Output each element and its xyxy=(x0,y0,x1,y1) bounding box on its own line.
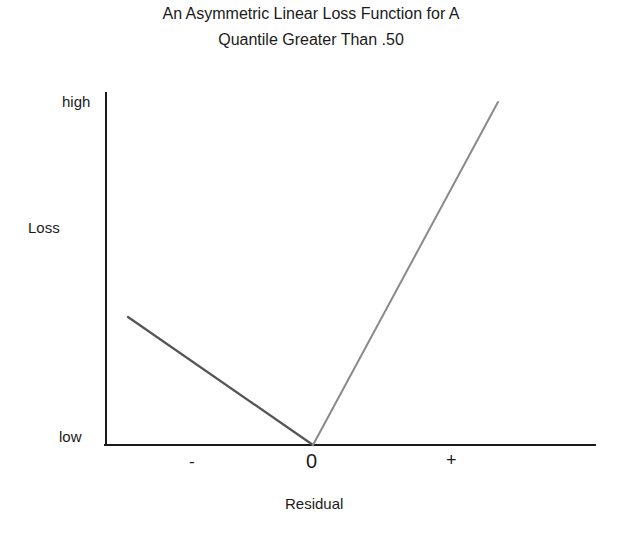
y-axis-label: Loss xyxy=(28,219,60,236)
x-tick-minus: - xyxy=(189,452,195,472)
x-tick-zero: 0 xyxy=(306,450,317,473)
loss-line-negative-residuals xyxy=(128,317,313,445)
loss-line-positive-residuals xyxy=(313,102,498,445)
x-tick-plus: + xyxy=(446,450,457,471)
y-tick-low: low xyxy=(59,428,82,445)
x-axis-label: Residual xyxy=(285,495,343,512)
y-tick-high: high xyxy=(62,93,90,110)
